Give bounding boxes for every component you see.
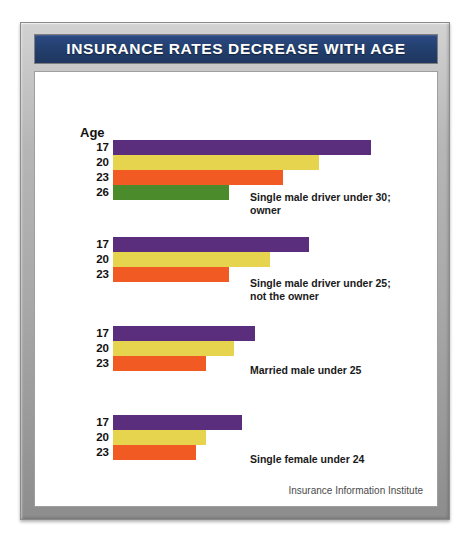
bar xyxy=(113,415,242,430)
bar-age-label: 20 xyxy=(57,341,109,356)
bar xyxy=(113,341,234,356)
bar xyxy=(113,237,309,252)
bar-row: 17 xyxy=(35,326,437,341)
axis-title-age: Age xyxy=(80,125,105,140)
bar-age-label: 20 xyxy=(57,155,109,170)
bar-age-label: 20 xyxy=(57,430,109,445)
bar-age-label: 23 xyxy=(57,356,109,371)
bar xyxy=(113,140,371,155)
bar-age-label: 17 xyxy=(57,140,109,155)
chart-panel: Age 17202326Single male driver under 30;… xyxy=(34,71,438,507)
bar-row: 20 xyxy=(35,341,437,356)
bar-row: 23 xyxy=(35,170,437,185)
bar-row: 17 xyxy=(35,140,437,155)
chart-title: INSURANCE RATES DECREASE WITH AGE xyxy=(66,40,405,58)
bar-age-label: 17 xyxy=(57,326,109,341)
bar-age-label: 23 xyxy=(57,267,109,282)
bar xyxy=(113,445,196,460)
bar xyxy=(113,430,206,445)
bar-age-label: 26 xyxy=(57,185,109,200)
bar xyxy=(113,170,283,185)
bar-row: 20 xyxy=(35,252,437,267)
bar-row: 20 xyxy=(35,430,437,445)
bar xyxy=(113,326,255,341)
bar-group-caption: Single male driver under 30; owner xyxy=(250,191,391,217)
bar-row: 20 xyxy=(35,155,437,170)
bar xyxy=(113,252,270,267)
bar-age-label: 17 xyxy=(57,415,109,430)
bar-group-caption: Single male driver under 25; not the own… xyxy=(250,277,391,303)
bar-age-label: 23 xyxy=(57,170,109,185)
bar-row: 17 xyxy=(35,415,437,430)
plot-area: Age 17202326Single male driver under 30;… xyxy=(35,72,437,506)
bar xyxy=(113,185,229,200)
chart-frame: INSURANCE RATES DECREASE WITH AGE Age 17… xyxy=(20,22,450,520)
chart-title-bar: INSURANCE RATES DECREASE WITH AGE xyxy=(34,34,438,64)
bar-group-caption: Single female under 24 xyxy=(250,453,364,466)
bar-row: 23 xyxy=(35,445,437,460)
bar-row: 23 xyxy=(35,356,437,371)
bar-group-caption: Married male under 25 xyxy=(250,364,361,377)
bar xyxy=(113,155,319,170)
bar-age-label: 23 xyxy=(57,445,109,460)
bar xyxy=(113,356,206,371)
source-attribution: Insurance Information Institute xyxy=(288,485,423,496)
bar-row: 17 xyxy=(35,237,437,252)
bar-age-label: 17 xyxy=(57,237,109,252)
bar xyxy=(113,267,229,282)
bar-age-label: 20 xyxy=(57,252,109,267)
